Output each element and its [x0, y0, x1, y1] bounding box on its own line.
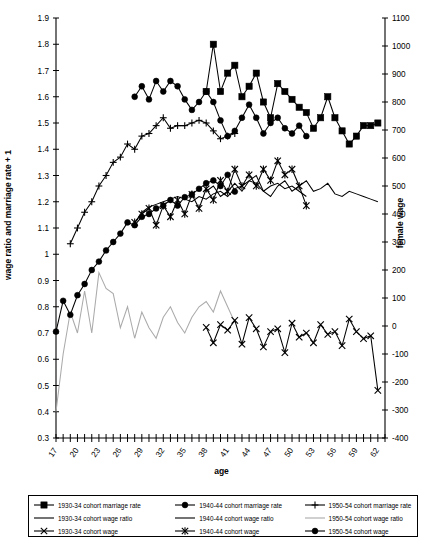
- marker-circle: [189, 107, 195, 113]
- legend-marker-none-icon: [304, 513, 326, 523]
- marker-circle: [160, 89, 166, 95]
- marker-circle: [67, 312, 73, 318]
- series-wr5054: [56, 273, 235, 412]
- marker-square: [360, 123, 366, 129]
- x-tick-label: 38: [197, 446, 210, 459]
- marker-square: [275, 81, 281, 87]
- marker-circle: [261, 131, 267, 137]
- legend-item[interactable]: 1940-44 cohort marriage rate: [174, 500, 303, 510]
- series-w3034: [203, 314, 381, 393]
- marker-square: [253, 70, 259, 76]
- x-tick-label: 23: [90, 446, 103, 459]
- y-tick-label-left: 1.7: [38, 67, 50, 76]
- series-line: [135, 161, 307, 225]
- marker-circle: [303, 133, 309, 139]
- marker-circle: [125, 220, 131, 226]
- legend-marker-none-icon: [33, 513, 55, 523]
- marker-circle: [139, 83, 145, 89]
- marker-circle: [82, 281, 88, 287]
- y-tick-label-left: 1.4: [38, 145, 50, 154]
- marker-circle: [103, 248, 109, 254]
- marker-square: [239, 94, 245, 100]
- marker-circle: [218, 183, 224, 189]
- x-tick-label: 17: [47, 446, 60, 459]
- marker-circle: [168, 197, 174, 203]
- y-tick-label-right: -100: [392, 350, 409, 359]
- legend-label: 1930-34 cohort marriage rate: [58, 501, 141, 510]
- y-tick-label-right: -400: [392, 434, 409, 443]
- y-tick-label-left: 1.8: [38, 40, 50, 49]
- y-tick-label-left: 1.1: [38, 224, 50, 233]
- x-tick-label: 44: [240, 446, 253, 459]
- legend-item[interactable]: 1930-34 cohort wage ratio: [29, 513, 174, 523]
- marker-square: [339, 128, 345, 134]
- marker-square: [260, 99, 266, 105]
- legend-label: 1940-44 cohort wage ratio: [199, 514, 273, 523]
- y-tick-label-left: 1: [44, 250, 49, 259]
- chart-canvas: 0.30.40.50.60.70.80.911.11.21.31.41.51.6…: [0, 0, 443, 478]
- marker-square: [325, 94, 331, 100]
- marker-circle: [275, 115, 281, 121]
- series-line: [206, 318, 378, 391]
- legend-item[interactable]: 1930-34 cohort marriage rate: [29, 500, 174, 510]
- marker-circle: [89, 267, 95, 273]
- legend-item[interactable]: 1930-34 cohort wage: [29, 526, 174, 536]
- x-tick-label: 20: [68, 446, 81, 459]
- marker-square: [353, 133, 359, 139]
- chart-legend: 1930-34 cohort marriage rate1940-44 coho…: [28, 495, 418, 537]
- x-tick-label: 62: [369, 446, 382, 459]
- legend-label: 1950-54 cohort marriage rate: [329, 501, 412, 510]
- y-tick-label-left: 1.9: [38, 14, 50, 23]
- y-tick-label-right: 100: [392, 294, 406, 303]
- y-tick-label-right: 1100: [392, 14, 410, 23]
- marker-circle: [218, 117, 224, 123]
- legend-label: 1950-54 cohort wage: [329, 527, 389, 536]
- marker-circle: [160, 203, 166, 209]
- y-tick-label-left: 0.4: [38, 408, 50, 417]
- marker-circle: [153, 206, 159, 212]
- marker-square: [282, 88, 288, 94]
- y-axis-left-title: wage ratio and marriage rate + 1: [3, 115, 13, 315]
- y-tick-label-left: 1.6: [38, 93, 50, 102]
- chart-page: 0.30.40.50.60.70.80.911.11.21.31.41.51.6…: [0, 0, 443, 546]
- legend-marker-plus-icon: [304, 500, 326, 510]
- marker-square: [332, 115, 338, 121]
- legend-label: 1930-34 cohort wage: [58, 527, 118, 536]
- y-tick-label-left: 0.8: [38, 303, 50, 312]
- legend-item[interactable]: 1950-54 cohort marriage rate: [304, 500, 417, 510]
- legend-item[interactable]: 1940-44 cohort wage: [174, 526, 303, 536]
- legend-label: 1940-44 cohort marriage rate: [199, 501, 282, 510]
- marker-circle: [96, 259, 102, 265]
- marker-square: [303, 109, 309, 115]
- marker-circle: [203, 180, 209, 186]
- x-tick-label: 53: [304, 446, 317, 459]
- y-axis-right-title: female wage: [395, 153, 405, 293]
- legend-item[interactable]: 1950-54 cohort wage ratio: [304, 513, 417, 523]
- marker-circle: [153, 78, 159, 84]
- marker-circle: [146, 211, 152, 217]
- x-tick-label: 32: [154, 446, 167, 459]
- legend-item[interactable]: 1950-54 cohort wage: [304, 526, 417, 536]
- marker-circle: [182, 194, 188, 200]
- legend-item[interactable]: 1940-44 cohort wage ratio: [174, 513, 303, 523]
- marker-square: [346, 141, 352, 147]
- marker-circle: [239, 115, 245, 121]
- marker-square: [232, 62, 238, 68]
- y-tick-label-right: 700: [392, 126, 406, 135]
- chart-plot-svg: 0.30.40.50.60.70.80.911.11.21.31.41.51.6…: [0, 0, 443, 478]
- y-tick-label-right: -300: [392, 406, 409, 415]
- marker-circle: [203, 89, 209, 95]
- legend-row: 1930-34 cohort marriage rate1940-44 coho…: [29, 499, 417, 511]
- y-tick-label-left: 0.7: [38, 329, 50, 338]
- marker-square: [246, 83, 252, 89]
- series-line: [56, 273, 235, 412]
- x-tick-label: 59: [347, 446, 360, 459]
- marker-circle: [182, 96, 188, 102]
- y-tick-label-left: 0.5: [38, 382, 50, 391]
- series-line: [206, 44, 378, 144]
- x-tick-label: 47: [261, 446, 274, 459]
- marker-circle: [53, 329, 59, 335]
- marker-circle: [312, 528, 318, 534]
- legend-marker-circle-icon: [174, 500, 196, 510]
- y-tick-label-left: 1.5: [38, 119, 50, 128]
